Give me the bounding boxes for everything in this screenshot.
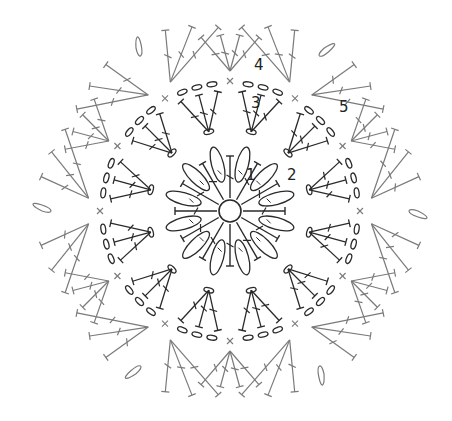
chain-stitch: [345, 158, 353, 169]
chain-stitch: [100, 224, 106, 235]
picot-loop: [33, 203, 51, 212]
magic-ring: [219, 200, 241, 222]
round-number-label: 4: [254, 58, 264, 73]
chain-stitch: [124, 127, 134, 138]
chain-stitch: [354, 224, 360, 235]
chain-stitch: [272, 326, 283, 334]
chain-stitch: [146, 307, 157, 317]
round-number-label: 2: [287, 168, 297, 183]
dc-bar: [395, 183, 396, 191]
petal-bar: [267, 219, 271, 223]
chain-stitch: [258, 84, 269, 91]
round-number-label: 5: [339, 100, 349, 115]
dc-bar: [380, 161, 385, 167]
petal-bar: [189, 219, 193, 223]
chain-stitch: [191, 331, 202, 338]
dc-cap: [394, 269, 395, 277]
round-number-label: 3: [251, 96, 261, 111]
dc-bar: [214, 364, 217, 372]
dc-bar: [177, 367, 185, 368]
petal-bar: [238, 248, 242, 252]
petal-bar: [267, 199, 271, 203]
dc-cap: [89, 332, 90, 340]
dc-cap: [110, 219, 112, 227]
picot-loop: [130, 37, 147, 57]
petal-bar: [238, 170, 242, 174]
dc-bar: [355, 301, 363, 302]
chain-stitch: [354, 188, 360, 199]
dc-cap: [161, 391, 169, 392]
dc-bar: [64, 231, 65, 239]
dc-bar: [69, 243, 72, 250]
chain-stitch: [304, 307, 315, 317]
dc-cap: [214, 91, 222, 93]
dc-cap: [103, 61, 108, 68]
round-number-label: 1: [246, 168, 256, 183]
chain-stitch: [100, 188, 106, 199]
chain-stitch: [207, 81, 218, 87]
chain-stitch: [146, 105, 157, 115]
petal-loop: [179, 160, 213, 194]
dc-bar: [99, 299, 104, 305]
chain-stitch: [272, 88, 283, 96]
dc-cap: [214, 330, 222, 332]
picot-loop: [313, 365, 330, 385]
picot-loop: [318, 40, 335, 60]
dc-bar: [73, 163, 81, 165]
dc-bar: [151, 271, 153, 279]
chain-stitch: [326, 285, 336, 296]
dc-bar: [388, 171, 391, 178]
chain-stitch: [107, 158, 115, 169]
chain-stitch: [326, 127, 336, 138]
dc-cap: [89, 82, 90, 90]
dc-bar: [386, 246, 394, 247]
chain-stitch: [350, 172, 357, 183]
chain-stitch: [258, 331, 269, 338]
dc-bar: [356, 117, 361, 123]
dc-bar: [275, 54, 283, 55]
dc-bar: [162, 132, 170, 134]
petal-bar: [218, 248, 222, 252]
petal-bar: [200, 237, 204, 241]
dc-bar: [179, 51, 184, 57]
dc-cap: [76, 105, 78, 113]
dc-bar: [240, 367, 248, 369]
dc-bar: [333, 76, 334, 84]
chain-stitch: [103, 239, 110, 250]
chain-stitch: [304, 105, 315, 115]
dc-bar: [290, 288, 298, 290]
petal-loop: [247, 228, 281, 262]
chain-stitch: [315, 115, 325, 125]
dc-cap: [76, 309, 78, 317]
chain-stitch: [134, 115, 144, 125]
dc-cap: [161, 30, 169, 31]
chain-stitch: [107, 253, 115, 264]
dc-bar: [276, 364, 281, 370]
dc-bar: [243, 50, 246, 58]
dc-cap: [48, 149, 54, 154]
dc-bar: [190, 366, 198, 368]
dc-bar: [97, 119, 105, 120]
dc-cap: [291, 391, 299, 392]
dc-cap: [349, 219, 351, 227]
crochet-chart: [0, 0, 452, 421]
dc-cap: [64, 145, 65, 153]
chain-stitch: [350, 239, 357, 250]
dc-cap: [382, 309, 384, 317]
dc-cap: [103, 354, 108, 361]
dc-cap: [405, 268, 411, 273]
dc-bar: [264, 363, 267, 371]
dc-bar: [212, 53, 220, 55]
dc-cap: [352, 61, 357, 68]
chain-stitch: [103, 172, 110, 183]
dc-cap: [405, 149, 411, 154]
chain-stitch: [243, 335, 254, 341]
dc-bar: [74, 255, 79, 261]
dc-cap: [352, 354, 357, 361]
petal-bar: [218, 170, 222, 174]
chain-stitch: [124, 285, 134, 296]
dc-bar: [66, 174, 74, 175]
dc-bar: [307, 143, 309, 151]
chain-stitch: [134, 296, 144, 306]
petal-bar: [256, 181, 260, 185]
